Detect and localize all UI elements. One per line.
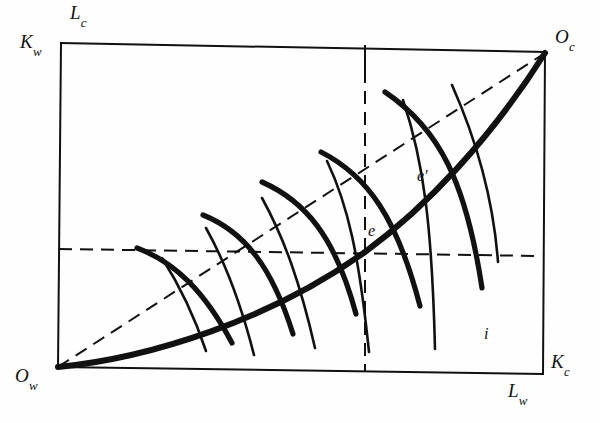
- label-Ow: Ow: [15, 366, 37, 390]
- guide-lines: [58, 53, 545, 372]
- box-right-edge: [543, 52, 545, 374]
- label-i: i: [484, 326, 488, 342]
- label-e: e: [368, 223, 375, 239]
- edgeworth-box-figure: Lc Kw Oc Ow Kc Lw e e′ i: [0, 0, 600, 423]
- c-isoquant-6: [452, 85, 498, 262]
- box-bottom-edge: [58, 367, 543, 374]
- box-top-edge: [61, 43, 545, 52]
- label-Lw: Lw: [508, 381, 527, 405]
- edgeworth-diagram-svg: [0, 0, 600, 423]
- label-Kw: Kw: [20, 32, 41, 56]
- label-Lc: Lc: [70, 3, 86, 27]
- label-e-prime: e′: [417, 168, 428, 184]
- box-left-edge: [58, 43, 61, 367]
- horizontal-dashed-guide: [59, 249, 542, 256]
- label-Kc: Kc: [551, 352, 569, 376]
- label-Oc: Oc: [555, 27, 574, 51]
